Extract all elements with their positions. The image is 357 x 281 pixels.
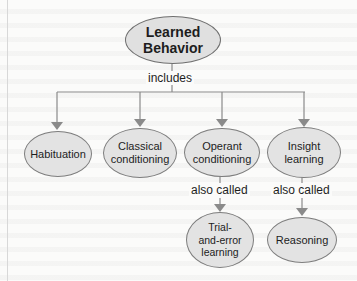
arrow-operant [216, 119, 228, 127]
trial-line3: learning [201, 246, 238, 259]
insight-line2: learning [284, 153, 323, 166]
node-learned-behavior: Learned Behavior [125, 16, 221, 64]
node-habituation: Habituation [24, 131, 92, 177]
trial-line1: Trial- [208, 221, 232, 234]
habituation-label: Habituation [30, 148, 86, 161]
node-insight-learning: Insight learning [267, 127, 341, 178]
node-reasoning: Reasoning [267, 217, 337, 263]
link-includes: includes [146, 71, 194, 85]
link-also-called-operant: also called [189, 183, 250, 197]
arrow-trial [214, 204, 226, 212]
root-line2: Behavior [143, 40, 203, 56]
arrow-insight [298, 119, 310, 127]
link-also-called-insight: also called [271, 183, 332, 197]
root-line1: Learned [146, 24, 200, 40]
node-trial-and-error-learning: Trial- and-error learning [186, 212, 254, 268]
arrow-habituation [51, 122, 63, 130]
classical-line1: Classical [118, 140, 162, 153]
arrow-reasoning [296, 208, 308, 216]
node-operant-conditioning: Operant conditioning [184, 128, 260, 177]
node-classical-conditioning: Classical conditioning [103, 128, 177, 178]
reasoning-label: Reasoning [276, 234, 329, 247]
classical-line2: conditioning [111, 153, 170, 166]
trial-line2: and-error [198, 234, 241, 247]
insight-line1: Insight [288, 140, 320, 153]
arrow-classical [134, 119, 146, 127]
operant-line1: Operant [202, 140, 242, 153]
operant-line2: conditioning [193, 153, 252, 166]
